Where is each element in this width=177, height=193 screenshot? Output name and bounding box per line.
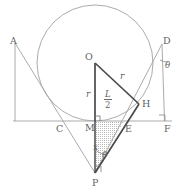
point-label-a: A — [10, 36, 17, 46]
segment-o-h — [95, 63, 139, 104]
vertical-line-d — [162, 44, 165, 121]
point-label-c: C — [56, 124, 63, 134]
label-radius-vertical: r — [86, 90, 90, 99]
label-angle-theta-d: θ — [165, 61, 170, 70]
point-label-p: P — [92, 178, 98, 188]
label-angle-theta-p: θ — [102, 151, 107, 160]
point-label-m: M — [85, 123, 95, 133]
point-label-d: D — [163, 36, 171, 46]
label-height-x: x — [93, 143, 98, 152]
point-label-f: F — [164, 124, 171, 134]
half-l-denominator: 2 — [104, 101, 112, 110]
label-half-l: L 2 — [104, 90, 112, 109]
point-label-e: E — [125, 124, 132, 134]
label-radius-to-h: r — [120, 72, 124, 81]
half-l-numerator: L — [104, 90, 112, 99]
ray-a-to-p — [15, 43, 95, 173]
geometry-figure: A D O H C M E F P r r x θ θ L 2 — [0, 0, 177, 193]
point-label-h: H — [142, 99, 150, 109]
point-label-o: O — [85, 52, 93, 62]
